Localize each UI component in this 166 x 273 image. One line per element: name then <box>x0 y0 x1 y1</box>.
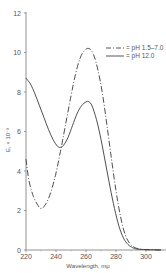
x-tick-label: 220 <box>20 253 32 260</box>
y-tick-label: 0 <box>17 247 21 254</box>
y-tick-label: 4 <box>17 168 21 175</box>
x-tick-label: 260 <box>80 253 92 260</box>
legend-label-ph-1-5-7-0: = pH 1.5–7.0 <box>126 44 164 52</box>
x-tick-label: 240 <box>50 253 62 260</box>
series-line-ph-1-5-7-0 <box>26 48 161 250</box>
x-tick-label: 300 <box>140 253 152 260</box>
y-axis-title: E, × 10⁻³ <box>5 128 11 152</box>
x-ticks: 220240260280300 <box>20 250 152 260</box>
chart: 220240260280300 024681012 Wavelength, mμ… <box>0 0 166 273</box>
y-tick-label: 6 <box>17 128 21 135</box>
series-line-ph-12-0 <box>26 78 161 250</box>
y-ticks: 024681012 <box>13 10 26 254</box>
x-axis-title: Wavelength, mμ <box>66 263 110 269</box>
y-tick-label: 8 <box>17 89 21 96</box>
legend: = pH 1.5–7.0 = pH 12.0 <box>106 44 164 60</box>
y-tick-label: 10 <box>13 49 21 56</box>
y-tick-label: 2 <box>17 207 21 214</box>
y-tick-label: 12 <box>13 10 21 17</box>
x-tick-label: 280 <box>110 253 122 260</box>
legend-label-ph-12-0: = pH 12.0 <box>126 52 155 60</box>
series-group <box>26 48 161 250</box>
